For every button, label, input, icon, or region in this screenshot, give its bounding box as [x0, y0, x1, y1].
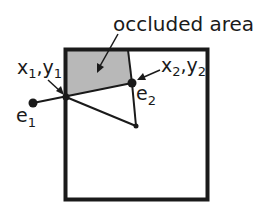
- e1-label: e1: [16, 104, 36, 130]
- arrow-x1y1: [48, 80, 64, 95]
- point-bottom-vertex: [134, 124, 139, 129]
- e2-label: e2: [136, 82, 156, 108]
- point-e1: [29, 99, 38, 108]
- occluded-area-label: occluded area: [113, 12, 254, 36]
- edge-x1-to-bottom: [66, 97, 136, 126]
- x2y2-label: x2,y2: [161, 54, 206, 79]
- arrow-x2y2: [137, 70, 160, 80]
- occlusion-diagram: occluded area x1,y1 x2,y2 e1 e2: [0, 0, 277, 207]
- x1y1-label: x1,y1: [17, 56, 62, 81]
